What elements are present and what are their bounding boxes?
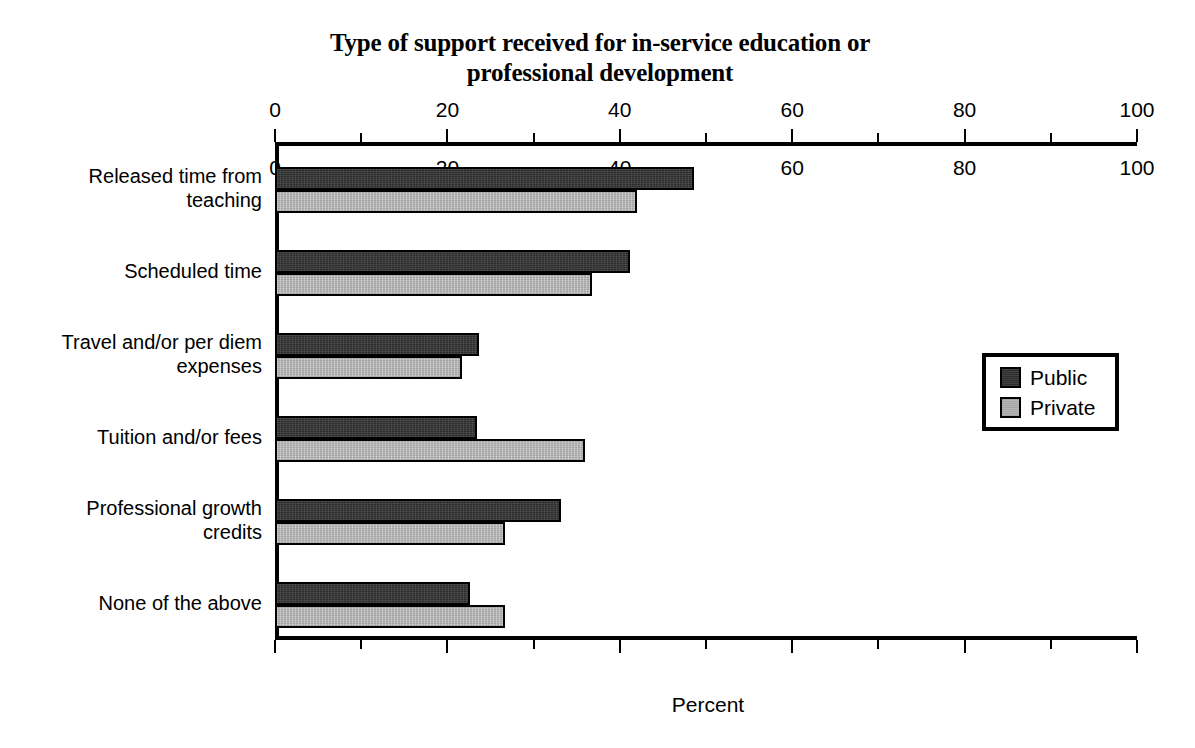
axis-tick — [791, 640, 793, 653]
x-tick-label-40: 40 — [590, 98, 650, 122]
category-label-4: Professional growth credits — [30, 496, 262, 544]
x-tick-label-20: 20 — [417, 98, 477, 122]
bar-private-3 — [275, 439, 585, 462]
axis-minor-tick — [1050, 640, 1052, 649]
bar-public-3 — [275, 416, 477, 439]
axis-minor-tick — [877, 640, 879, 649]
x-tick-label-80: 80 — [935, 98, 995, 122]
axis-tick — [274, 640, 276, 653]
chart-title-line-2: professional development — [210, 58, 990, 88]
category-label-3: Tuition and/or fees — [30, 425, 262, 449]
bar-private-1 — [275, 273, 592, 296]
axis-minor-tick — [360, 640, 362, 649]
x-tick-label-80: 80 — [935, 156, 995, 180]
axis-minor-tick — [705, 133, 707, 142]
axis-minor-tick — [533, 640, 535, 649]
bar-public-5 — [275, 582, 470, 605]
legend-label-private: Private — [1030, 397, 1095, 418]
bar-public-0 — [275, 167, 694, 190]
axis-tick — [964, 129, 966, 142]
category-label-1: Scheduled time — [30, 259, 262, 283]
bar-private-5 — [275, 605, 505, 628]
left-axis-line — [275, 142, 279, 640]
axis-tick — [1136, 129, 1138, 142]
x-tick-label-60: 60 — [762, 156, 822, 180]
x-tick-label-100: 100 — [1107, 156, 1167, 180]
bar-private-0 — [275, 190, 637, 213]
legend-item-private[interactable]: Private — [1000, 393, 1095, 421]
legend-item-public[interactable]: Public — [1000, 363, 1087, 391]
x-axis-title: Percent — [277, 693, 1139, 717]
axis-minor-tick — [1050, 133, 1052, 142]
axis-tick — [274, 129, 276, 142]
axis-tick — [619, 129, 621, 142]
axis-minor-tick — [705, 640, 707, 649]
legend-swatch-public — [1000, 367, 1021, 388]
axis-tick — [619, 640, 621, 653]
axis-tick — [791, 129, 793, 142]
category-label-0: Released time from teaching — [30, 164, 262, 212]
bar-private-2 — [275, 356, 462, 379]
axis-minor-tick — [533, 133, 535, 142]
category-label-5: None of the above — [30, 591, 262, 615]
axis-tick — [964, 640, 966, 653]
x-tick-label-0: 0 — [245, 98, 305, 122]
top-axis-line — [275, 142, 1137, 146]
chart-title-line-1: Type of support received for in-service … — [210, 28, 990, 58]
bar-public-4 — [275, 499, 561, 522]
axis-minor-tick — [360, 133, 362, 142]
x-tick-label-60: 60 — [762, 98, 822, 122]
bar-chart: Type of support received for in-service … — [0, 0, 1195, 748]
axis-tick — [446, 129, 448, 142]
x-tick-label-100: 100 — [1107, 98, 1167, 122]
bar-public-1 — [275, 250, 630, 273]
legend-swatch-private — [1000, 397, 1021, 418]
bar-public-2 — [275, 333, 479, 356]
chart-title: Type of support received for in-service … — [210, 28, 990, 88]
axis-tick — [446, 640, 448, 653]
category-label-2: Travel and/or per diem expenses — [30, 330, 262, 378]
bar-private-4 — [275, 522, 505, 545]
axis-tick — [1136, 640, 1138, 653]
axis-minor-tick — [877, 133, 879, 142]
legend: PublicPrivate — [982, 353, 1119, 431]
category-axis-labels: Released time from teachingScheduled tim… — [30, 142, 262, 640]
legend-label-public: Public — [1030, 367, 1087, 388]
